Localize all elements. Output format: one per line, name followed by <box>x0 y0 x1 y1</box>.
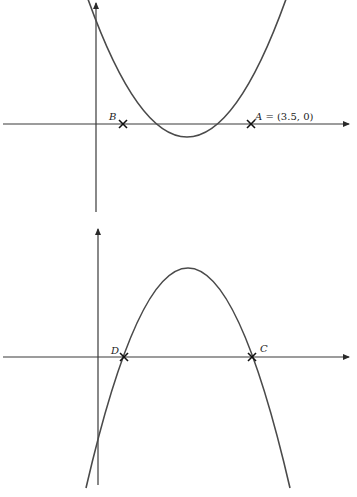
top-graph: B A = (3.5, 0) <box>3 0 349 212</box>
bottom-graph: D C <box>3 229 349 488</box>
downward-parabola-curve <box>86 268 290 488</box>
point-a-name: A <box>254 111 262 122</box>
point-a-coordinates: = (3.5, 0) <box>262 111 313 122</box>
point-a-label: A = (3.5, 0) <box>254 111 313 122</box>
point-c-label: C <box>260 343 268 354</box>
point-d-label: D <box>110 345 119 356</box>
diagram-canvas: B A = (3.5, 0) D C <box>0 0 357 497</box>
point-b-label: B <box>108 111 116 122</box>
